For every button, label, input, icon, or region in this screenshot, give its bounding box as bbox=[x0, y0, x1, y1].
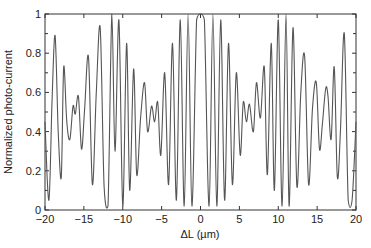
x-tick-label: −10 bbox=[113, 213, 132, 225]
x-tick-label: −5 bbox=[155, 213, 168, 225]
x-tick-label: 20 bbox=[350, 213, 362, 225]
x-tick-label: 15 bbox=[311, 213, 323, 225]
x-axis: −20−15−10−505101520 bbox=[36, 14, 362, 225]
y-tick-label: 0.8 bbox=[26, 47, 41, 59]
y-tick-label: 0.4 bbox=[26, 126, 41, 138]
x-axis-label: ΔL (µm) bbox=[181, 228, 220, 240]
x-tick-label: −15 bbox=[75, 213, 94, 225]
x-tick-label: 0 bbox=[197, 213, 203, 225]
y-tick-label: 1 bbox=[35, 8, 41, 20]
y-axis-label: Normalized photo-current bbox=[2, 50, 14, 174]
line-chart: −20−15−10−505101520 00.20.40.60.81 ΔL (µ… bbox=[0, 0, 371, 248]
y-tick-label: 0 bbox=[35, 204, 41, 216]
x-tick-label: 10 bbox=[272, 213, 284, 225]
x-tick-label: 5 bbox=[236, 213, 242, 225]
y-tick-label: 0.6 bbox=[26, 86, 41, 98]
y-tick-label: 0.2 bbox=[26, 165, 41, 177]
photo-current-curve bbox=[45, 14, 356, 208]
